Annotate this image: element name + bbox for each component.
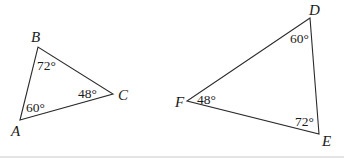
triangle-def: D E F 60° 72° 48° bbox=[174, 2, 331, 149]
bottom-divider bbox=[0, 156, 344, 158]
similar-triangles-figure: B A C 72° 60° 48° D E F 60° 72° 48° bbox=[0, 0, 344, 159]
angle-label-f: 48° bbox=[197, 92, 216, 107]
vertex-label-b: B bbox=[31, 29, 40, 45]
vertex-label-f: F bbox=[174, 94, 185, 110]
triangle-abc: B A C 72° 60° 48° bbox=[10, 29, 129, 139]
angle-label-a: 60° bbox=[26, 100, 45, 115]
angle-label-d: 60° bbox=[290, 31, 309, 46]
vertex-label-e: E bbox=[321, 133, 331, 149]
vertex-label-c: C bbox=[118, 87, 129, 103]
vertex-label-d: D bbox=[308, 2, 320, 18]
angle-label-c: 48° bbox=[78, 86, 97, 101]
vertex-label-a: A bbox=[10, 123, 21, 139]
angle-label-e: 72° bbox=[295, 114, 314, 129]
angle-label-b: 72° bbox=[37, 58, 56, 73]
